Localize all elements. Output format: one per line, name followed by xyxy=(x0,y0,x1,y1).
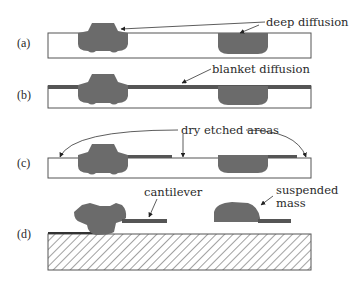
hatched-substrate xyxy=(48,234,311,270)
step-a-label: (a) xyxy=(17,36,30,50)
deep-diffusion-left-b xyxy=(78,74,128,105)
bond-layer xyxy=(48,232,96,234)
suspended-label: suspended xyxy=(276,183,339,197)
arrow-to-cantilever xyxy=(149,199,157,217)
etched-layer-right xyxy=(265,155,297,158)
mass-label: mass xyxy=(276,196,306,210)
deep-diffusion-left xyxy=(78,23,128,53)
anchor-mass xyxy=(74,203,126,235)
step-d: (d) cantilever suspended mass xyxy=(17,183,339,270)
deep-diffusion-left-c xyxy=(78,144,128,175)
deep-diffusion-right-b xyxy=(218,86,268,105)
step-a: (a) deep diffusion xyxy=(17,15,349,58)
step-b-label: (b) xyxy=(17,88,31,102)
cantilever-label: cantilever xyxy=(144,185,203,199)
blanket-diffusion-label: blanket diffusion xyxy=(212,62,310,76)
suspended-mass-body xyxy=(214,202,260,222)
arrow-to-suspended-mass xyxy=(261,196,273,205)
suspended-mass-beam xyxy=(258,219,291,223)
arrow-to-left-diffusion xyxy=(121,22,265,29)
step-b: (b) blanket diffusion xyxy=(17,62,311,108)
step-d-label: (d) xyxy=(17,227,31,241)
cantilever-beam xyxy=(122,219,167,223)
process-flow-diagram: (a) deep diffusion (b) blanket diffusion… xyxy=(0,0,355,283)
deep-diffusion-label: deep diffusion xyxy=(266,15,349,29)
deep-diffusion-right xyxy=(218,33,268,54)
deep-diffusion-right-c xyxy=(218,155,268,173)
etched-layer-left xyxy=(125,155,172,158)
arrow-to-right-diffusion xyxy=(240,25,259,33)
arrow-to-blanket xyxy=(182,69,211,83)
step-c-label: (c) xyxy=(17,156,30,170)
step-c: (c) dry etched areas xyxy=(17,123,311,178)
dry-etched-areas-label: dry etched areas xyxy=(181,123,279,137)
